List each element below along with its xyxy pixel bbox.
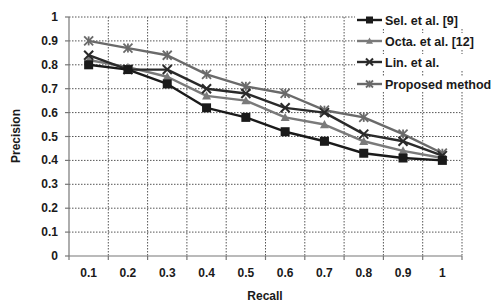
y-tick-label: 0.6 xyxy=(41,106,58,120)
legend: Sel. et al. [9]Octa. et al. [12]Lin. et … xyxy=(355,12,499,92)
x-tick-label: 0.9 xyxy=(395,266,412,280)
x-axis-title: Recall xyxy=(247,289,282,303)
y-axis-title: Precision xyxy=(9,109,23,163)
x-axis-ticks: 0.10.20.30.40.50.60.70.80.91 xyxy=(80,266,446,280)
legend-item: Sel. et al. [9] xyxy=(355,12,499,28)
legend-item: Octa. et al. [12] xyxy=(355,33,499,49)
x-tick-label: 0.7 xyxy=(316,266,333,280)
y-tick-label: 0.9 xyxy=(41,34,58,48)
x-tick-label: 0.2 xyxy=(120,266,137,280)
y-tick-label: 0.7 xyxy=(41,82,58,96)
precision-recall-chart: 00.10.20.30.40.50.60.70.80.91 0.10.20.30… xyxy=(0,0,499,308)
legend-label: Lin. et al. xyxy=(385,56,439,70)
square-marker-icon xyxy=(163,79,172,88)
y-tick-label: 0.3 xyxy=(41,177,58,191)
y-tick-label: 0.2 xyxy=(41,201,58,215)
y-axis-ticks: 00.10.20.30.40.50.60.70.80.91 xyxy=(41,10,58,263)
legend-item: Lin. et al. xyxy=(355,54,499,70)
square-marker-icon xyxy=(281,127,290,136)
legend-label: Proposed method xyxy=(385,78,491,92)
x-tick-label: 0.3 xyxy=(159,266,176,280)
square-marker-icon xyxy=(399,154,408,163)
legend-label: Sel. et al. [9] xyxy=(385,14,458,28)
y-tick-label: 0 xyxy=(51,249,58,263)
square-marker-icon xyxy=(202,103,211,112)
square-marker-icon xyxy=(359,149,368,158)
x-tick-label: 0.8 xyxy=(355,266,372,280)
x-tick-label: 1 xyxy=(439,266,446,280)
y-tick-label: 0.5 xyxy=(41,130,58,144)
square-marker-icon xyxy=(84,60,93,69)
y-tick-label: 1 xyxy=(51,10,58,24)
legend-label: Octa. et al. [12] xyxy=(385,35,474,49)
y-tick-label: 0.8 xyxy=(41,58,58,72)
square-marker-icon xyxy=(366,17,373,24)
y-tick-label: 0.4 xyxy=(41,153,58,167)
x-tick-label: 0.6 xyxy=(277,266,294,280)
x-tick-label: 0.5 xyxy=(238,266,255,280)
legend-item: Proposed method xyxy=(355,76,499,92)
x-tick-label: 0.1 xyxy=(80,266,97,280)
x-tick-label: 0.4 xyxy=(198,266,215,280)
square-marker-icon xyxy=(320,137,329,146)
square-marker-icon xyxy=(438,156,447,165)
square-marker-icon xyxy=(123,65,132,74)
square-marker-icon xyxy=(241,113,250,122)
y-tick-label: 0.1 xyxy=(41,225,58,239)
